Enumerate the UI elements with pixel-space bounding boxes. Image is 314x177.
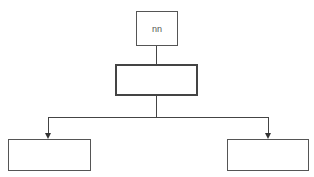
left-child-node xyxy=(8,139,91,171)
connector-horizontal xyxy=(48,117,269,118)
connector-middle-down xyxy=(156,96,157,118)
middle-node xyxy=(115,64,198,96)
connector-top-to-middle xyxy=(156,46,157,64)
connector-left-drop xyxy=(48,117,49,133)
top-node: nn xyxy=(136,11,178,46)
right-child-node xyxy=(227,139,309,171)
connector-right-drop xyxy=(268,117,269,133)
corner-caption: Label xyxy=(2,0,19,1)
top-node-label: nn xyxy=(137,24,177,34)
